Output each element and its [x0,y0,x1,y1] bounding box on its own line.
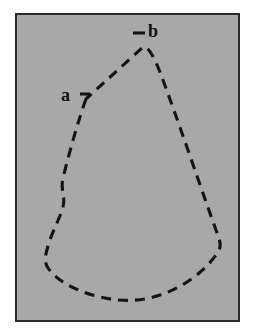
contour-drawing [0,0,255,335]
point-label-b: b [148,22,158,40]
point-label-a: a [61,86,70,104]
dashed-contour-path [45,47,220,300]
figure-page: a b [0,0,255,335]
